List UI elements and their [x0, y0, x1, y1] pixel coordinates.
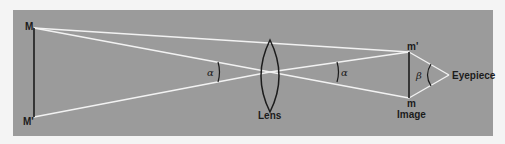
ray-top [34, 28, 409, 52]
label-image-top: m' [407, 41, 418, 52]
label-eyepiece: Eyepiece [452, 70, 496, 81]
angle-arc-right [337, 62, 339, 82]
label-angle-right: α [341, 67, 348, 78]
eyepiece-ray-bottom [409, 75, 449, 98]
angle-arc-eyepiece [428, 64, 432, 86]
label-angle-left: α [207, 67, 214, 78]
lens-icon [261, 40, 279, 112]
label-image-bottom: m [407, 98, 416, 109]
label-object-top: M [25, 21, 33, 32]
label-lens: Lens [258, 110, 282, 121]
ray-upper [34, 28, 409, 98]
ray-lower [34, 52, 409, 117]
eyepiece-ray-top [409, 52, 449, 75]
optics-diagram: M M' α α β Lens m' m Image Eyepiece [0, 0, 505, 144]
label-image: Image [397, 109, 426, 120]
angle-arc-left [218, 62, 220, 82]
label-angle-eyepiece: β [415, 70, 422, 81]
label-object-bottom: M' [23, 116, 34, 127]
